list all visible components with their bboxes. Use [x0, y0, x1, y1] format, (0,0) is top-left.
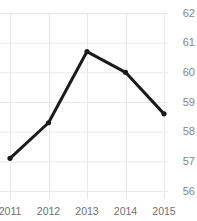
y-axis-tick-label: 60: [183, 67, 195, 78]
plot-area: [0, 0, 197, 221]
data-point: [46, 120, 51, 125]
y-axis-tick-label: 62: [183, 8, 195, 19]
y-axis-tick-label: 56: [183, 186, 195, 197]
x-axis-tick-label: 2012: [37, 205, 60, 217]
x-axis-tick-label: 2011: [0, 205, 21, 217]
data-point: [84, 49, 89, 54]
data-point: [161, 111, 166, 116]
y-axis-tick-label: 59: [183, 97, 195, 108]
x-axis-tick-label: 2015: [152, 205, 175, 217]
y-axis-tick-label: 57: [183, 156, 195, 167]
horizontal-gridlines: [0, 14, 168, 192]
data-point: [7, 156, 12, 161]
line-chart: 62616059585756 20112012201320142015: [0, 0, 197, 221]
y-axis-tick-label: 58: [183, 126, 195, 137]
y-axis-tick-label: 61: [183, 37, 195, 48]
x-axis-tick-label: 2014: [114, 205, 137, 217]
vertical-gridlines: [11, 13, 165, 199]
x-axis-tick-label: 2013: [75, 205, 98, 217]
data-point: [123, 70, 128, 75]
